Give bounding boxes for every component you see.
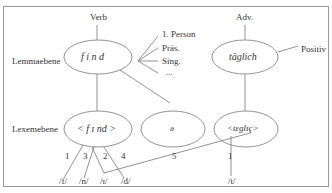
- phoneme-f: /f/: [59, 177, 67, 186]
- feature-person: 1. Person: [162, 30, 196, 39]
- feature-number: Sing.: [162, 57, 181, 66]
- edge-label-4: 4: [121, 152, 126, 161]
- phoneme-i: /ɪ/: [100, 177, 108, 186]
- lemma-level-label: Lemmaebene: [12, 57, 60, 66]
- feature-positiv: Positiv: [301, 45, 326, 54]
- lexeme-schwa: ə: [170, 124, 174, 133]
- edge-label-2: 2: [103, 152, 108, 161]
- edge-label-1: 1: [65, 152, 70, 161]
- lexeme-taeglic: <tɛglɪç>: [227, 124, 259, 133]
- adverb-category-label: Adv.: [236, 13, 253, 22]
- verb-category-label: Verb: [90, 13, 107, 22]
- phoneme-d: /d/: [121, 177, 131, 186]
- phoneme-t: /t/: [228, 177, 236, 186]
- lemma-find: f i n d: [81, 52, 104, 62]
- lexeme-level-label: Lexemebene: [12, 125, 58, 134]
- edge-label-3: 3: [83, 152, 88, 161]
- feature-tense: Präs.: [162, 44, 180, 53]
- feature-ellipsis: ...: [166, 68, 173, 77]
- edge-label-5: 5: [172, 152, 177, 161]
- phoneme-n: /n/: [79, 177, 89, 186]
- lexeme-find: < f ɪ nd >: [77, 124, 116, 134]
- lemma-taeglich: täglich: [229, 52, 257, 62]
- edge-label-t1: 1: [228, 152, 233, 161]
